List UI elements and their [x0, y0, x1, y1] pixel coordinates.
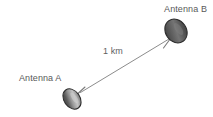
- antenna-b-label: Antenna B: [164, 4, 207, 15]
- antenna-link-diagram: Antenna B Antenna A 1 km: [0, 0, 213, 117]
- distance-label: 1 km: [103, 46, 123, 57]
- antenna-a-dish: [59, 85, 85, 112]
- link-line: [81, 39, 170, 93]
- antenna-b-group: [160, 15, 192, 48]
- antenna-a-group: [59, 85, 85, 112]
- diagram-canvas: [0, 0, 213, 117]
- antenna-a-label: Antenna A: [19, 73, 61, 84]
